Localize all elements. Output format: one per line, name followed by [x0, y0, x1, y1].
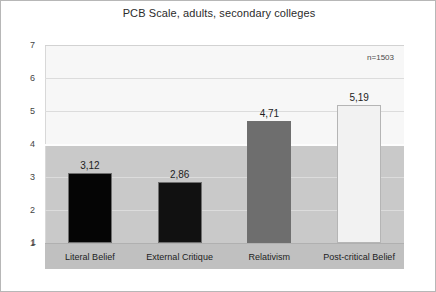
bar-column: 4,71: [225, 45, 315, 243]
y-tick-label: 2: [30, 205, 35, 215]
category-label: Relativism: [225, 244, 315, 269]
bar-column: 2,86: [135, 45, 225, 243]
category-label: External Critique: [135, 244, 225, 269]
y-tick-label: 6: [30, 73, 35, 83]
category-axis-band: Literal BeliefExternal CritiqueRelativis…: [45, 243, 404, 269]
y-tick-baseline: 1: [31, 237, 36, 247]
bar-value-label: 5,19: [349, 92, 368, 103]
y-tick-label: 5: [30, 106, 35, 116]
y-tick-label: 4: [30, 139, 35, 149]
sample-size-annotation: n=1503: [367, 53, 394, 62]
bar-value-label: 4,71: [260, 108, 279, 119]
category-label: Literal Belief: [45, 244, 135, 269]
bar-chart: PCB Scale, adults, secondary colleges 12…: [0, 0, 436, 292]
bar-value-label: 3,12: [80, 160, 99, 171]
bar-value-label: 2,86: [170, 169, 189, 180]
y-axis: 1234567: [1, 45, 41, 243]
bar[interactable]: [337, 105, 381, 243]
chart-title: PCB Scale, adults, secondary colleges: [1, 7, 436, 19]
y-tick-label: 3: [30, 172, 35, 182]
category-label: Post-critical Belief: [314, 244, 404, 269]
y-tick-label: 7: [30, 40, 35, 50]
bar[interactable]: [158, 182, 202, 243]
bar-column: 5,19: [314, 45, 404, 243]
bar-column: 3,12: [45, 45, 135, 243]
bar[interactable]: [247, 121, 291, 243]
bar[interactable]: [68, 173, 112, 243]
plot-area: 3,122,864,715,19 n=1503: [45, 45, 404, 243]
